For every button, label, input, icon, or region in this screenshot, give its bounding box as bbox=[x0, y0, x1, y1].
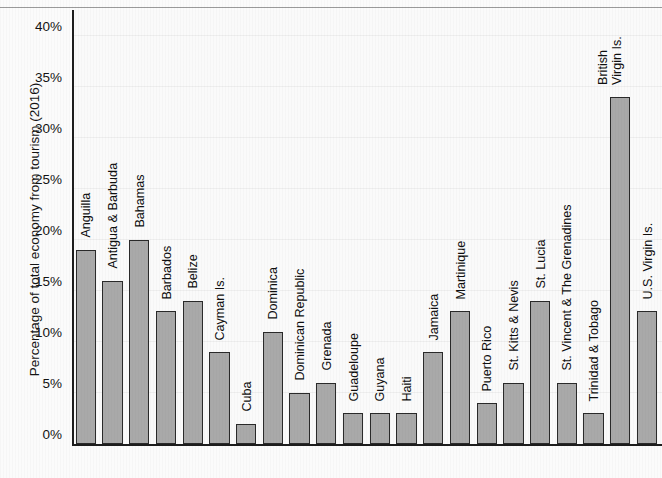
y-tick-label: 5% bbox=[10, 376, 62, 391]
bar-category-label: Dominican Republic bbox=[294, 269, 307, 381]
bar[interactable] bbox=[263, 332, 283, 444]
bar-slot[interactable]: Martinique bbox=[448, 16, 475, 444]
plot-area: 0%5%10%15%20%25%30%35%40% AnguillaAntigu… bbox=[72, 10, 662, 446]
bar[interactable] bbox=[557, 383, 577, 444]
bar-slot[interactable]: Dominica bbox=[261, 16, 288, 444]
bar[interactable] bbox=[156, 311, 176, 444]
bar[interactable] bbox=[450, 311, 470, 444]
y-tick-label: 10% bbox=[10, 325, 62, 340]
bar-slot[interactable]: Dominican Republic bbox=[288, 16, 315, 444]
bar[interactable] bbox=[637, 311, 657, 444]
y-tick-label: 0% bbox=[10, 427, 62, 442]
bar-slot[interactable]: Bahamas bbox=[127, 16, 154, 444]
bar-category-label: Grenada bbox=[321, 322, 334, 371]
bar-slot[interactable]: Jamaica bbox=[421, 16, 448, 444]
bar-slot[interactable]: Puerto Rico bbox=[475, 16, 502, 444]
bar-category-label: Dominica bbox=[267, 267, 280, 320]
bar-series: AnguillaAntigua & BarbudaBahamasBarbados… bbox=[74, 16, 662, 444]
bar-slot[interactable]: BritishVirgin Is. bbox=[609, 16, 636, 444]
bar[interactable] bbox=[477, 403, 497, 444]
y-tick-label: 35% bbox=[10, 70, 62, 85]
bar[interactable] bbox=[102, 281, 122, 444]
bar[interactable] bbox=[289, 393, 309, 444]
bar[interactable] bbox=[610, 97, 630, 444]
bar-category-label: U.S. Virgin Is. bbox=[642, 222, 655, 299]
bar-category-label: St. Kitts & Nevis bbox=[508, 280, 521, 370]
bar-slot[interactable]: Grenada bbox=[315, 16, 342, 444]
bar[interactable] bbox=[183, 301, 203, 444]
bar-category-label: Cayman Is. bbox=[214, 276, 227, 340]
bar-category-label: Belize bbox=[187, 255, 200, 289]
bar[interactable] bbox=[76, 250, 96, 444]
bar-slot[interactable]: St. Vincent & The Grenadines bbox=[555, 16, 582, 444]
y-tick-label: 15% bbox=[10, 274, 62, 289]
bar-category-label: Antigua & Barbuda bbox=[107, 163, 120, 269]
bar-slot[interactable]: St. Kitts & Nevis bbox=[502, 16, 529, 444]
bar[interactable] bbox=[423, 352, 443, 444]
bar-category-label: Puerto Rico bbox=[481, 325, 494, 391]
bar-category-label: Haiti bbox=[401, 376, 414, 401]
x-axis-line bbox=[72, 444, 662, 446]
bar[interactable] bbox=[370, 413, 390, 444]
bar[interactable] bbox=[396, 413, 416, 444]
bar-slot[interactable]: Cuba bbox=[234, 16, 261, 444]
bar[interactable] bbox=[316, 383, 336, 444]
bar-category-label: Jamaica bbox=[428, 293, 441, 340]
chart-figure: GDP SHARE OF TOURISM Percentage of total… bbox=[0, 0, 662, 478]
bar[interactable] bbox=[530, 301, 550, 444]
bar-slot[interactable]: Cayman Is. bbox=[208, 16, 235, 444]
bar-slot[interactable]: U.S. Virgin Is. bbox=[635, 16, 662, 444]
bar[interactable] bbox=[209, 352, 229, 444]
bar-category-label: Martinique bbox=[454, 240, 467, 299]
bar[interactable] bbox=[583, 413, 603, 444]
bar-slot[interactable]: Guyana bbox=[368, 16, 395, 444]
bar[interactable] bbox=[129, 240, 149, 444]
bar-category-label: Guyana bbox=[374, 357, 387, 401]
bar-category-label: BritishVirgin Is. bbox=[597, 0, 624, 85]
bar-slot[interactable]: St. Lucia bbox=[528, 16, 555, 444]
bar-slot[interactable]: Belize bbox=[181, 16, 208, 444]
bar-category-label: Cuba bbox=[241, 381, 254, 411]
bar-category-label: Bahamas bbox=[134, 175, 147, 228]
y-axis-line bbox=[72, 10, 74, 446]
bar-slot[interactable]: Anguilla bbox=[74, 16, 101, 444]
y-tick-label: 20% bbox=[10, 223, 62, 238]
bar[interactable] bbox=[343, 413, 363, 444]
bar-category-label: St. Vincent & The Grenadines bbox=[561, 205, 574, 371]
title-divider bbox=[0, 7, 662, 8]
bar-slot[interactable]: Guadeloupe bbox=[341, 16, 368, 444]
bar-category-label: Trinidad & Tobago bbox=[588, 300, 601, 402]
bar-category-label: Anguilla bbox=[80, 193, 93, 238]
bar-category-label: St. Lucia bbox=[535, 240, 548, 289]
bar-category-label: Guadeloupe bbox=[348, 333, 361, 402]
y-tick-label: 30% bbox=[10, 121, 62, 136]
bar-slot[interactable]: Haiti bbox=[395, 16, 422, 444]
y-tick-label: 25% bbox=[10, 172, 62, 187]
bar-slot[interactable]: Antigua & Barbuda bbox=[101, 16, 128, 444]
bar[interactable] bbox=[503, 383, 523, 444]
y-tick-label: 40% bbox=[10, 19, 62, 34]
bar-slot[interactable]: Barbados bbox=[154, 16, 181, 444]
bar[interactable] bbox=[236, 424, 256, 444]
bar-category-label: Barbados bbox=[160, 245, 173, 299]
